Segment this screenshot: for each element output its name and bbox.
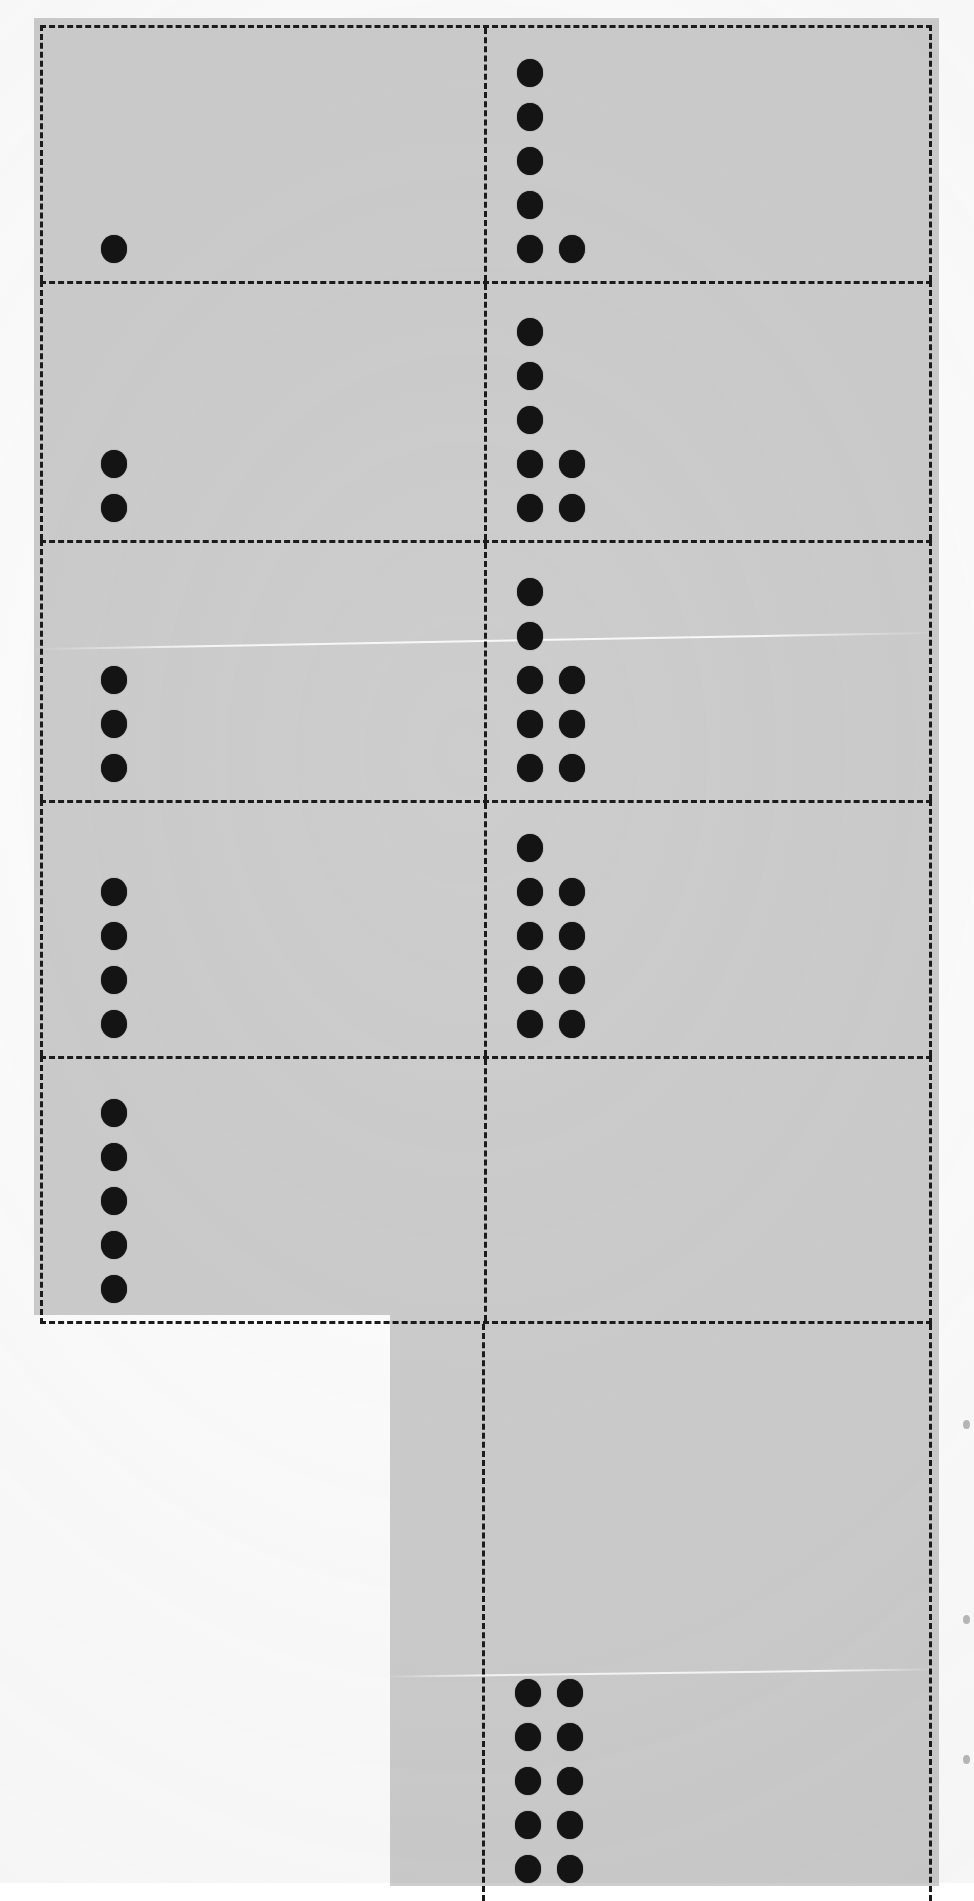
dot-column (557, 1679, 583, 1883)
dot-column (101, 235, 127, 263)
dot (559, 450, 585, 478)
dot-column (101, 878, 127, 1038)
dot (559, 966, 585, 994)
dot-column (517, 578, 543, 782)
dot (517, 578, 543, 606)
dot (517, 922, 543, 950)
table-row (40, 1056, 932, 1324)
table-row (40, 25, 932, 281)
dot-column (101, 666, 127, 782)
dot (101, 878, 127, 906)
dot (101, 754, 127, 782)
dot (101, 922, 127, 950)
row-2-right-cell[interactable] (487, 284, 930, 540)
dot (515, 1811, 541, 1839)
dot (101, 450, 127, 478)
dot (517, 59, 543, 87)
dot-column (517, 318, 543, 522)
dot-column (517, 834, 543, 1038)
dot-cluster (43, 878, 127, 1056)
dot (557, 1679, 583, 1707)
dot (101, 1143, 127, 1171)
dot-column (515, 1679, 541, 1883)
dot (517, 362, 543, 390)
dot (517, 235, 543, 263)
dot (101, 494, 127, 522)
edge-speck-lower (963, 1755, 970, 1764)
row-3-right-cell[interactable] (487, 543, 930, 800)
dot (517, 191, 543, 219)
dot-cluster (487, 834, 585, 1056)
dot (557, 1811, 583, 1839)
row-4-left-cell[interactable] (43, 803, 487, 1056)
dot (517, 754, 543, 782)
dot (101, 666, 127, 694)
dot (517, 494, 543, 522)
dot-cluster (487, 1303, 517, 1321)
dot-cluster (43, 235, 127, 281)
dot (517, 710, 543, 738)
dot (517, 147, 543, 175)
dot-column (517, 59, 543, 263)
dot (101, 1010, 127, 1038)
dot (517, 666, 543, 694)
table-row (40, 1324, 932, 1901)
table-row (40, 800, 932, 1056)
dot-column (559, 450, 585, 522)
row-1-right-cell[interactable] (487, 28, 930, 281)
dot-column (559, 235, 585, 263)
dot-cluster (487, 578, 585, 800)
dot (559, 710, 585, 738)
edge-speck-mid (963, 1615, 970, 1624)
dot (101, 235, 127, 263)
dot (517, 406, 543, 434)
dot (517, 834, 543, 862)
dot (559, 922, 585, 950)
dot (515, 1679, 541, 1707)
dot (101, 1275, 127, 1303)
row-1-left-cell[interactable] (43, 28, 487, 281)
dot (517, 103, 543, 131)
dot (557, 1723, 583, 1751)
dot-cluster (487, 59, 585, 281)
dot (515, 1723, 541, 1751)
dot (101, 966, 127, 994)
row-6-blank-area (40, 1324, 485, 1901)
dot-column (101, 1099, 127, 1303)
row-6-right-cell[interactable] (485, 1324, 929, 1901)
row-2-left-cell[interactable] (43, 284, 487, 540)
dot (559, 235, 585, 263)
dot-cluster (43, 450, 127, 540)
dot (515, 1767, 541, 1795)
dot (101, 1231, 127, 1259)
dot (559, 666, 585, 694)
dot-cluster (487, 318, 585, 540)
dot (559, 754, 585, 782)
dot (517, 622, 543, 650)
dot (559, 494, 585, 522)
dot (559, 1010, 585, 1038)
row-5-right-cell[interactable] (487, 1059, 930, 1321)
table-row (40, 281, 932, 540)
dot (517, 878, 543, 906)
row-5-left-cell[interactable] (43, 1059, 487, 1321)
dot (557, 1767, 583, 1795)
dot (517, 966, 543, 994)
dot-cluster (43, 1099, 127, 1321)
table-row (40, 540, 932, 800)
dot (517, 450, 543, 478)
dot (101, 1187, 127, 1215)
dot (515, 1855, 541, 1883)
dot (517, 318, 543, 346)
row-3-left-cell[interactable] (43, 543, 487, 800)
dot (101, 710, 127, 738)
row-4-right-cell[interactable] (487, 803, 930, 1056)
dot-column (559, 666, 585, 782)
dot (101, 1099, 127, 1127)
edge-speck-upper (963, 1420, 970, 1429)
dot (557, 1855, 583, 1883)
dot-column (101, 450, 127, 522)
dot (517, 1010, 543, 1038)
dot-table (40, 25, 932, 1901)
